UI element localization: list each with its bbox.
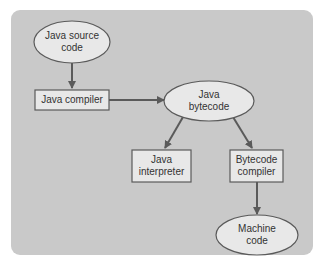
edge-bytecode-to-bytecode-compiler bbox=[233, 117, 252, 148]
label-line: Java compiler bbox=[41, 94, 103, 106]
label-line: Java bbox=[151, 154, 172, 166]
label-line: code bbox=[61, 42, 83, 54]
label-line: Bytecode bbox=[236, 154, 278, 166]
label-java-source-code: Java source code bbox=[34, 21, 110, 63]
label-line: Machine bbox=[238, 223, 276, 235]
label-line: code bbox=[246, 235, 268, 247]
edge-bytecode-to-interpreter bbox=[165, 117, 183, 148]
label-java-bytecode: Java bytecode bbox=[164, 81, 254, 121]
label-line: Java source bbox=[45, 30, 99, 42]
label-line: bytecode bbox=[189, 101, 230, 113]
label-bytecode-compiler: Bytecode compiler bbox=[230, 150, 283, 182]
label-java-compiler: Java compiler bbox=[35, 90, 109, 110]
label-machine-code: Machine code bbox=[216, 215, 298, 255]
label-java-interpreter: Java interpreter bbox=[132, 150, 191, 182]
label-line: Java bbox=[198, 89, 219, 101]
label-line: interpreter bbox=[139, 166, 185, 178]
label-line: compiler bbox=[238, 166, 276, 178]
